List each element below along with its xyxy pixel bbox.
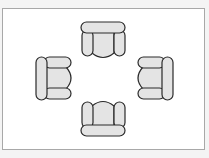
- armchair-bottom: [81, 102, 125, 137]
- chair-arm-left: [82, 102, 93, 128]
- chair-back: [81, 22, 125, 33]
- chair-seat: [138, 67, 163, 89]
- armchair-right: [138, 57, 173, 100]
- armchair-left: [36, 57, 71, 100]
- chair-arm-left: [82, 30, 93, 56]
- chair-arm-top: [44, 57, 71, 68]
- chair-arm-right: [114, 102, 125, 128]
- chair-back: [162, 57, 173, 100]
- chair-back: [81, 125, 125, 136]
- chair-seat: [46, 67, 71, 89]
- armchair-layout: [0, 0, 209, 158]
- armchair-top: [81, 22, 125, 58]
- chair-arm-top: [138, 57, 165, 68]
- chair-arm-bottom: [138, 88, 165, 99]
- chair-arm-bottom: [44, 88, 71, 99]
- chair-seat: [92, 32, 114, 58]
- chair-arm-right: [114, 30, 125, 56]
- chair-seat: [92, 102, 114, 127]
- chair-back: [36, 57, 47, 100]
